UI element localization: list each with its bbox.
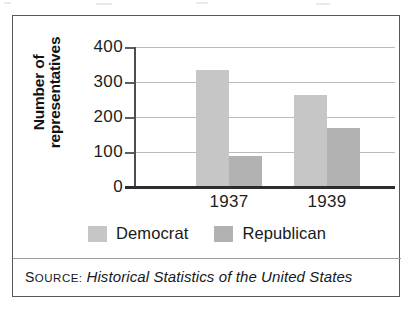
y-axis-line xyxy=(134,47,136,189)
y-tick-label-100: 100 xyxy=(77,142,123,162)
chart-legend: Democrat Republican xyxy=(13,224,401,243)
y-axis-title: Number of representatives xyxy=(31,22,64,162)
x-axis-line xyxy=(125,186,395,189)
figure-frame: Number of representatives 400 300 200 10… xyxy=(12,15,400,297)
bar-1939-democrat xyxy=(294,95,327,188)
source-separator xyxy=(13,258,401,259)
source-prefix-capital: S xyxy=(25,269,35,285)
x-axis-tick-labels: 1937 1939 xyxy=(134,192,395,220)
y-tick-label-400: 400 xyxy=(77,37,123,57)
legend-swatch-republican xyxy=(214,226,233,242)
bar-1939-republican xyxy=(327,128,360,188)
x-tick-label-1939: 1939 xyxy=(307,192,346,212)
scan-artifact-right xyxy=(196,2,208,4)
y-tick-label-300: 300 xyxy=(77,72,123,92)
legend-swatch-democrat xyxy=(88,226,107,242)
source-prefix: Source: xyxy=(25,272,83,284)
legend-label-republican: Republican xyxy=(242,224,326,243)
y-axis-title-line-2: representatives xyxy=(47,22,63,162)
source-prefix-rest: ource: xyxy=(35,272,83,284)
scan-artifact-far-right xyxy=(316,3,330,5)
legend-label-democrat: Democrat xyxy=(116,224,188,243)
scan-artifact-left xyxy=(4,2,11,4)
bars-group xyxy=(134,16,395,188)
y-axis-tick-labels: 400 300 200 100 0 xyxy=(69,16,123,198)
bar-1937-republican xyxy=(229,156,262,188)
bar-1937-democrat xyxy=(196,70,229,188)
y-tick-label-200: 200 xyxy=(77,107,123,127)
y-axis-title-line-1: Number of xyxy=(31,22,47,162)
legend-item-democrat: Democrat xyxy=(88,224,188,243)
y-tick-label-0: 0 xyxy=(77,177,123,197)
x-tick-label-1937: 1937 xyxy=(209,192,248,212)
source-title: Historical Statistics of the United Stat… xyxy=(86,268,352,285)
source-note: Source: Historical Statistics of the Uni… xyxy=(25,268,389,285)
scan-artifact-mid xyxy=(96,3,112,5)
bar-chart-plot-area: Number of representatives 400 300 200 10… xyxy=(13,16,401,198)
legend-item-republican: Republican xyxy=(214,224,326,243)
